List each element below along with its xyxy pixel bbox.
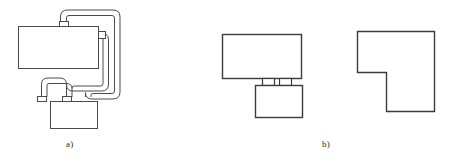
lower-base-rectangle — [256, 86, 303, 118]
figure-label-b: b) — [322, 139, 330, 149]
main-body-rectangle — [19, 27, 99, 69]
base-unit-rectangle — [51, 102, 98, 129]
spacer-block-left — [263, 79, 275, 86]
notched-profile-outline — [358, 32, 435, 112]
hose-inner-lower-bend — [42, 78, 73, 97]
base-right-port-connector — [63, 97, 72, 102]
panel-b-side-view-group — [358, 32, 435, 112]
top-port-connector — [60, 22, 69, 27]
figure-label-a: a) — [66, 139, 73, 149]
right-port-connector — [99, 32, 106, 39]
figure-container: a) b) — [0, 0, 452, 163]
base-left-port-connector — [38, 97, 47, 102]
panel-b-front-view-group — [223, 35, 303, 118]
panel-a-group — [19, 10, 121, 129]
spacer-block-right — [280, 79, 292, 86]
upper-housing-rectangle — [223, 35, 302, 79]
